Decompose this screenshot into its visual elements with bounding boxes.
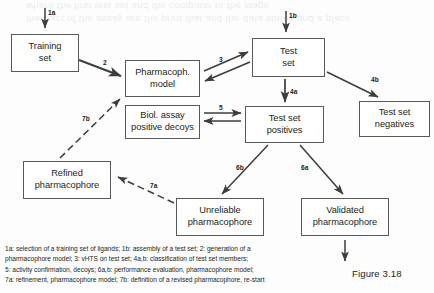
- edge-3-pharmacophore-model-to-test-set: [204, 52, 250, 81]
- figure-canvas: the tract of the assay are the print tha…: [0, 0, 434, 293]
- node-test-set-negatives[interactable]: Test set negatives: [359, 101, 430, 137]
- edge-label-3: 3: [219, 56, 223, 63]
- node-unreliable-pharmacophore[interactable]: Unreliable pharmacophore: [176, 198, 264, 236]
- node-test-set-positives[interactable]: Test set positives: [245, 106, 324, 143]
- node-refined-pharmacophore[interactable]: Refined pharmacophore: [23, 161, 111, 199]
- edge-label-6a: 6a: [301, 164, 308, 171]
- edge-label-5: 5: [219, 104, 223, 111]
- node-pharmacophore-model[interactable]: Pharmacoph. model: [125, 60, 200, 97]
- edge-label-6b: 6b: [236, 164, 244, 171]
- node-biol-assay-positive-decoys[interactable]: Biol. assay positive decoys: [125, 105, 200, 139]
- edge-5-biol-assay-decoys-to-test-set-positives: [204, 113, 241, 121]
- edge-label-7a: 7a: [150, 182, 157, 189]
- edge-label-2: 2: [103, 59, 107, 66]
- edge-7b-refined-pharmacophore-to-pharmacophore-model: [60, 99, 120, 158]
- node-training-set[interactable]: Training set: [11, 34, 79, 72]
- node-validated-pharmacophore[interactable]: Validated pharmacophore: [301, 198, 389, 236]
- figure-legend: 1a: selection of a training set of ligan…: [5, 244, 305, 286]
- edge-label-4b: 4b: [371, 76, 379, 83]
- edge-label-7b: 7b: [82, 115, 90, 122]
- edge-label-1b: 1b: [289, 12, 297, 19]
- edge-6b-test-set-positives-to-unreliable-pharmacophore: [222, 145, 268, 194]
- edge-7a-unreliable-to-refined-pharmacophore: [118, 177, 174, 203]
- node-test-set[interactable]: Test set: [252, 38, 325, 77]
- edge-label-4a: 4a: [290, 88, 297, 95]
- figure-number-label: Figure 3.18: [352, 268, 402, 279]
- edge-label-1a: 1a: [48, 9, 55, 16]
- edge-2-training-set-to-pharmacophore-model: [79, 60, 121, 76]
